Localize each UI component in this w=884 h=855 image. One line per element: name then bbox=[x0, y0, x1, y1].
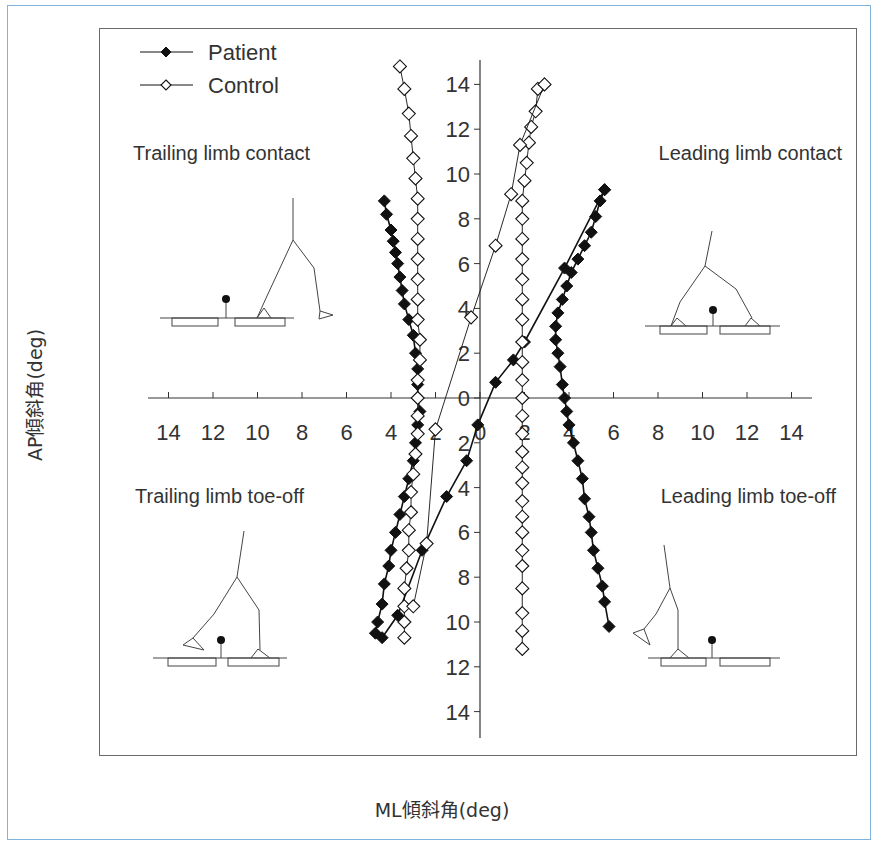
legend-label-control: Control bbox=[208, 73, 279, 98]
annotation-label: Leading limb contact bbox=[659, 142, 843, 164]
patient-marker bbox=[461, 455, 473, 467]
control-marker bbox=[411, 392, 424, 405]
figure-trailing-limb-contact bbox=[160, 198, 333, 326]
control-marker bbox=[398, 82, 411, 95]
x-tick-label: 6 bbox=[340, 420, 352, 445]
y-tick-label: 14 bbox=[446, 72, 470, 97]
y-tick-label: 4 bbox=[458, 476, 470, 501]
patient-marker bbox=[561, 405, 573, 417]
patient-marker bbox=[599, 184, 611, 196]
x-tick-label: 8 bbox=[652, 420, 664, 445]
control-marker bbox=[398, 631, 411, 644]
patient-marker bbox=[394, 508, 406, 520]
patient-marker bbox=[385, 224, 397, 236]
control-marker bbox=[516, 560, 529, 573]
patient-marker bbox=[579, 240, 591, 252]
control-marker bbox=[525, 120, 538, 133]
control-marker bbox=[407, 600, 420, 613]
control-marker bbox=[411, 253, 424, 266]
control-marker bbox=[505, 188, 518, 201]
control-marker bbox=[393, 60, 406, 73]
y-tick-label: 12 bbox=[446, 117, 470, 142]
chart-canvas: 1412108642024681012141412108642024681012… bbox=[0, 0, 884, 855]
legend: PatientControl bbox=[140, 40, 279, 98]
y-tick-label: 0 bbox=[458, 386, 470, 411]
control-marker bbox=[411, 273, 424, 286]
figure-stroke bbox=[633, 629, 650, 645]
control-marker bbox=[407, 152, 420, 165]
control-marker bbox=[516, 253, 529, 266]
patient-marker bbox=[587, 544, 599, 556]
control-marker bbox=[516, 232, 529, 245]
patient-marker bbox=[550, 334, 562, 346]
patient-marker bbox=[383, 560, 395, 572]
quadrant-annotations: Trailing limb contactLeading limb contac… bbox=[133, 142, 842, 507]
control-marker bbox=[489, 239, 502, 252]
control-marker bbox=[516, 526, 529, 539]
control-marker bbox=[516, 477, 529, 490]
figure-stroke bbox=[670, 588, 678, 650]
control-marker bbox=[516, 293, 529, 306]
control-marker bbox=[516, 544, 529, 557]
patient-marker bbox=[572, 253, 584, 265]
patient-marker bbox=[599, 596, 611, 608]
annotation-label: Trailing limb contact bbox=[133, 142, 311, 164]
control-marker bbox=[516, 582, 529, 595]
figure-stroke bbox=[745, 318, 760, 326]
patient-marker bbox=[385, 544, 397, 556]
force-plate bbox=[720, 658, 770, 666]
control-marker bbox=[516, 445, 529, 458]
patient-marker bbox=[603, 620, 615, 632]
force-plate bbox=[661, 658, 706, 666]
patient-marker bbox=[376, 598, 388, 610]
x-tick-label: 14 bbox=[156, 420, 180, 445]
figure-trailing-limb-toe-off bbox=[153, 531, 287, 666]
y-tick-label: 8 bbox=[458, 207, 470, 232]
control-marker bbox=[520, 156, 533, 169]
x-tick-label: 12 bbox=[201, 420, 225, 445]
patient-marker bbox=[592, 562, 604, 574]
patient-marker bbox=[585, 526, 597, 538]
control-marker bbox=[411, 232, 424, 245]
x-tick-label: 12 bbox=[735, 420, 759, 445]
force-plate bbox=[172, 318, 218, 326]
patient-marker bbox=[576, 473, 588, 485]
control-marker bbox=[516, 392, 529, 405]
patient-marker bbox=[441, 491, 453, 503]
y-tick-label: 10 bbox=[446, 162, 470, 187]
figure-stroke bbox=[644, 545, 670, 629]
x-tick-label: 10 bbox=[690, 420, 714, 445]
figure-stroke bbox=[293, 198, 320, 311]
center-of-mass-dot bbox=[709, 306, 717, 314]
control-marker bbox=[516, 194, 529, 207]
x-tick-label: 8 bbox=[296, 420, 308, 445]
patient-marker bbox=[389, 246, 401, 258]
control-marker bbox=[411, 212, 424, 225]
patient-marker bbox=[552, 307, 564, 319]
patient-marker bbox=[392, 258, 404, 270]
control-marker bbox=[411, 293, 424, 306]
x-tick-label: 4 bbox=[385, 420, 397, 445]
patient-marker bbox=[556, 293, 568, 305]
control-marker bbox=[516, 212, 529, 225]
figure-leading-limb-toe-off bbox=[633, 545, 780, 666]
legend-filled-diamond-icon bbox=[161, 47, 171, 57]
control-marker bbox=[516, 510, 529, 523]
control-marker bbox=[516, 642, 529, 655]
control-marker bbox=[402, 107, 415, 120]
control-marker bbox=[402, 544, 415, 557]
force-plate bbox=[228, 658, 279, 666]
patient-marker bbox=[556, 379, 568, 391]
patient-marker bbox=[378, 195, 390, 207]
patient-marker bbox=[572, 455, 584, 467]
figure-stroke bbox=[193, 531, 244, 638]
legend-label-patient: Patient bbox=[208, 40, 277, 65]
control-marker bbox=[516, 273, 529, 286]
y-tick-label: 10 bbox=[446, 610, 470, 635]
force-plate bbox=[235, 318, 285, 326]
control-marker bbox=[516, 313, 529, 326]
force-plate bbox=[720, 326, 770, 334]
y-tick-label: 2 bbox=[458, 431, 470, 456]
patient-marker bbox=[372, 616, 384, 628]
figure-stroke bbox=[319, 311, 333, 319]
